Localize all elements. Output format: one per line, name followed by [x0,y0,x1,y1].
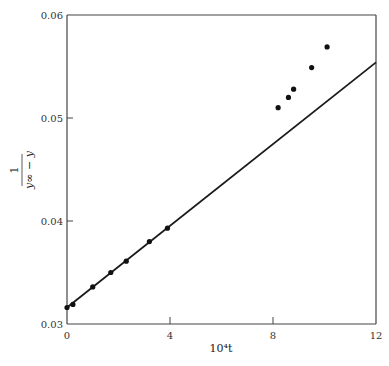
data-point [90,284,95,289]
x-axis-label: 10⁴t [210,342,233,355]
y-label-denominator: y∞ − y [23,150,36,190]
data-point [124,259,129,264]
data-points [64,44,329,310]
x-tick-label: 0 [64,330,70,341]
x-tick-label: 8 [270,330,276,341]
chart: 048120.030.040.050.06 10⁴t 1 y∞ − y [0,0,389,366]
data-point [291,87,296,92]
tick-labels: 048120.030.040.050.06 [41,10,383,342]
y-tick-label: 0.05 [41,113,63,124]
y-tick-label: 0.04 [41,216,63,227]
data-point [64,305,69,310]
axis-ticks [67,118,273,324]
y-label-numerator: 1 [8,167,21,174]
x-tick-label: 12 [370,330,383,341]
y-tick-label: 0.06 [41,10,63,21]
y-axis-label: 1 y∞ − y [8,150,36,190]
data-point [165,226,170,231]
data-point [276,105,281,110]
data-point [70,302,75,307]
data-point [108,270,113,275]
data-point [309,65,314,70]
y-tick-label: 0.03 [41,319,63,330]
fitted-line [67,62,376,307]
data-point [324,44,329,49]
x-tick-label: 4 [167,330,173,341]
data-point [286,95,291,100]
plot-frame [67,15,376,324]
data-point [147,239,152,244]
